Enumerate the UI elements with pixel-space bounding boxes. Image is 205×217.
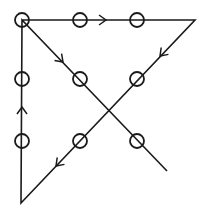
dot-circle xyxy=(130,134,144,148)
solution-path xyxy=(21,20,195,203)
path-line xyxy=(21,20,195,203)
dot-circle xyxy=(130,72,144,86)
dot-circle xyxy=(73,72,87,86)
nine-dots-diagram xyxy=(0,0,205,217)
diagram-canvas xyxy=(0,0,205,217)
